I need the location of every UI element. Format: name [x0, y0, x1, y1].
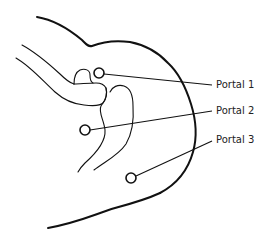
arm-lower-line: [16, 58, 107, 106]
portal-diagram: Portal 1 Portal 2 Portal 3: [0, 0, 265, 241]
portal-3-label: Portal 3: [216, 134, 254, 145]
portal-3-leader: [136, 141, 212, 176]
body-outline-bottom: [48, 193, 160, 228]
body-outline-top: [37, 17, 195, 193]
inner-structure-right: [94, 85, 133, 170]
portal-2-marker[interactable]: [80, 125, 90, 135]
tendon-lobe: [74, 69, 93, 84]
portal-2-leader: [90, 111, 212, 130]
portal-1-leader: [104, 74, 212, 85]
portal-1-marker[interactable]: [94, 68, 104, 78]
portal-2-label: Portal 2: [216, 105, 254, 116]
arm-upper-line: [22, 45, 74, 84]
portal-3-marker[interactable]: [126, 173, 136, 183]
portal-1-label: Portal 1: [216, 79, 254, 90]
